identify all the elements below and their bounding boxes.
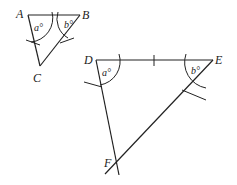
label-f: F bbox=[103, 156, 112, 170]
side-ef bbox=[105, 60, 213, 174]
label-a: A bbox=[15, 7, 24, 21]
angle-label-a: a° bbox=[34, 22, 43, 33]
tick-f1 bbox=[84, 82, 102, 87]
angle-label-b: b° bbox=[64, 19, 73, 30]
construction-diagram: A B C a° b° D E F a° b° bbox=[0, 0, 237, 185]
triangle-abc: A B C a° b° bbox=[15, 7, 90, 85]
side-bc bbox=[40, 15, 80, 66]
label-d: D bbox=[83, 53, 93, 67]
tick-f2 bbox=[182, 90, 206, 100]
triangle-def: D E F a° b° bbox=[83, 53, 223, 175]
label-b: B bbox=[82, 8, 90, 22]
angle-label-d: a° bbox=[102, 67, 111, 78]
label-e: E bbox=[214, 53, 223, 67]
angle-label-e: b° bbox=[191, 65, 200, 76]
label-c: C bbox=[33, 71, 42, 85]
